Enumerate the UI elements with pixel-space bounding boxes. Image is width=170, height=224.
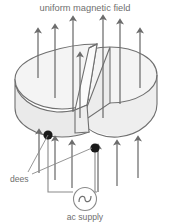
dees-leader-lines — [28, 135, 92, 174]
ac-supply-symbol[interactable] — [74, 188, 97, 211]
cyclotron-diagram-canvas: uniform magnetic field dees ac supply — [0, 0, 170, 224]
dees-leader-left — [28, 135, 48, 172]
wire-right — [95, 148, 97, 192]
ac-supply-label: ac supply — [67, 212, 104, 222]
left-dee — [15, 44, 97, 137]
left-dee-cut-face-lower — [75, 105, 89, 133]
wire-left — [48, 135, 73, 192]
page-title: uniform magnetic field — [40, 3, 131, 13]
dees-leader-right — [32, 148, 92, 174]
dees-label: dees — [10, 174, 29, 184]
cyclotron-figure: uniform magnetic field dees ac supply — [0, 0, 170, 224]
